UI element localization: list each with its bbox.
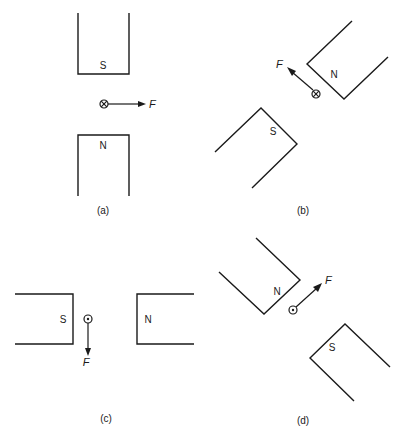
pole-label-upper-right: N	[330, 69, 337, 80]
force-arrow	[296, 283, 322, 307]
pole-label-left: S	[60, 314, 67, 325]
pole-label-lower-left: S	[270, 126, 277, 137]
pole-label-lower-right: S	[329, 342, 336, 353]
conductor-out-of-page-icon	[289, 306, 297, 314]
force-label: F	[325, 274, 333, 286]
magnet-lower-left	[215, 108, 297, 188]
force-arrow	[108, 101, 146, 107]
magnet-upper-right	[307, 21, 388, 99]
magnetic-force-diagram: S F N (a) N F S (b)	[0, 0, 404, 438]
force-label: F	[276, 58, 284, 70]
panel-b: N F S (b)	[215, 21, 388, 216]
force-label: F	[83, 356, 91, 368]
force-arrow	[85, 323, 91, 356]
panel-d: N F S (d)	[219, 238, 390, 426]
conductor-into-page-icon	[100, 100, 108, 108]
force-label: F	[149, 98, 157, 110]
panel-a: S F N (a)	[78, 13, 157, 216]
conductor-out-of-page-icon	[84, 315, 92, 323]
panel-c: S F N (c)	[15, 294, 194, 424]
pole-label-bottom: N	[99, 140, 106, 151]
force-arrow	[287, 67, 313, 90]
panel-caption: (d)	[297, 415, 309, 426]
panel-caption: (b)	[297, 205, 309, 216]
pole-label-upper-left: N	[273, 286, 280, 297]
panel-caption: (c)	[100, 413, 112, 424]
pole-label-right: N	[144, 314, 151, 325]
magnet-upper-left	[219, 238, 300, 314]
pole-label-top: S	[100, 60, 107, 71]
conductor-into-page-icon	[312, 90, 320, 98]
magnet-lower-right	[310, 324, 390, 401]
panel-caption: (a)	[97, 205, 109, 216]
